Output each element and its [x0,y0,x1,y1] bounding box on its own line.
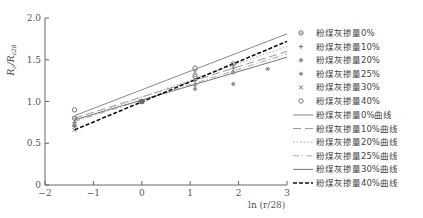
marker-circle [72,108,76,112]
fit-line [75,54,287,122]
y-tick-label: 1.0 [27,97,42,107]
legend: 粉煤灰掺量0%粉煤灰掺量10%粉煤灰掺量20%粉煤灰掺量25%粉煤灰掺量30%粉… [293,28,398,188]
legend-item-label: 粉煤灰掺量20%曲线 [316,137,398,147]
marker-asterisk [231,82,236,86]
x-ticks: −2−10123 [38,181,290,198]
legend-item-label: 粉煤灰掺量30% [316,82,380,92]
fit-line [75,41,287,130]
fit-line [75,46,287,120]
marker-x [299,85,303,89]
fit-line [75,57,287,120]
x-tick-label: 2 [236,188,242,198]
marker-circle-cross [299,31,303,35]
legend-item-label: 粉煤灰掺量0%曲线 [316,110,393,120]
legend-item-label: 粉煤灰掺量0% [316,28,375,38]
svg-text:Rc/Rc28: Rc/Rc28 [6,44,17,76]
legend-item-label: 粉煤灰掺量30%曲线 [316,164,398,174]
marker-plus [231,66,235,70]
marker-asterisk [299,72,304,76]
fit-line [75,34,287,116]
chart: −2−10123 00.51.01.52.0 Rc/Rc28 ln (r/28)… [0,0,423,218]
x-axis-title: ln (r/28) [248,200,285,210]
legend-item-label: 粉煤灰掺量10%曲线 [316,124,398,134]
marker-x [193,70,197,74]
x-tick-label: −1 [87,188,100,198]
legend-item-label: 粉煤灰掺量40%曲线 [316,178,398,188]
y-tick-label: 1.5 [27,55,42,65]
y-tick-label: 2.0 [27,13,42,23]
data-points [72,62,270,132]
legend-item-label: 粉煤灰掺量25% [316,69,380,79]
legend-item-label: 粉煤灰掺量40% [316,96,380,106]
legend-item-label: 粉煤灰掺量20% [316,55,380,65]
marker-circle [299,99,303,103]
y-axis-title: Rc/Rc28 [6,44,17,76]
marker-circle-cross [193,74,197,78]
marker-diamond [299,58,303,62]
marker-plus [299,44,303,48]
marker-asterisk [265,67,270,71]
marker-asterisk [193,87,198,91]
x-tick-label: 1 [187,188,193,198]
x-tick-label: 0 [139,188,145,198]
axes [45,18,287,185]
marker-diamond [193,83,197,87]
x-tick-label: 3 [284,188,290,198]
y-ticks: 00.51.01.52.0 [27,13,49,190]
y-tick-label: 0.5 [27,138,42,148]
y-tick-label: 0 [35,180,41,190]
legend-item-label: 粉煤灰掺量10% [316,42,380,52]
legend-item-label: 粉煤灰掺量25%曲线 [316,151,398,161]
fit-lines [75,34,287,130]
